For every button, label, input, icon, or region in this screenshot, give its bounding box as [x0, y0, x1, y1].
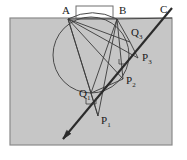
point-label-B: B	[119, 4, 126, 16]
diagram-root: ABCQ3P3P2Q1P1	[0, 0, 187, 160]
point-label-C: C	[160, 3, 167, 15]
point-subscript-P3: 3	[148, 58, 152, 66]
white-notch-rectangle	[76, 6, 113, 18]
point-subscript-P1: 1	[107, 121, 111, 129]
point-subscript-Q1: 1	[87, 94, 91, 102]
geometry-figure: ABCQ3P3P2Q1P1	[0, 0, 187, 160]
point-label-A: A	[62, 4, 70, 16]
point-subscript-P2: 2	[132, 81, 136, 89]
point-subscript-Q3: 3	[139, 33, 143, 41]
